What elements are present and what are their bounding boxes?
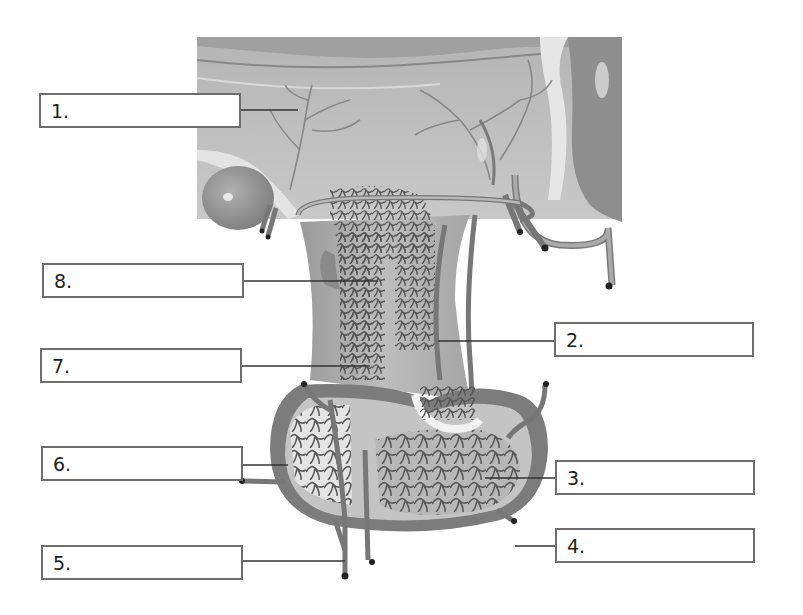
- label-number-2: 2.: [566, 329, 584, 351]
- label-number-5: 5.: [53, 552, 71, 574]
- label-number-3: 3.: [567, 467, 585, 489]
- label-box-3[interactable]: 3.: [555, 460, 755, 495]
- label-box-1[interactable]: 1.: [39, 93, 241, 128]
- label-box-4[interactable]: 4.: [555, 528, 755, 563]
- label-box-8[interactable]: 8.: [42, 263, 244, 298]
- label-number-7: 7.: [52, 355, 70, 377]
- label-number-6: 6.: [53, 453, 71, 475]
- label-box-6[interactable]: 6.: [41, 446, 243, 481]
- pituitary-gland: [239, 381, 549, 580]
- diagram-stage: 1. 2. 3. 4. 5. 6. 7. 8.: [0, 0, 803, 615]
- label-box-2[interactable]: 2.: [554, 322, 754, 357]
- label-number-1: 1.: [51, 100, 69, 122]
- label-number-4: 4.: [567, 535, 585, 557]
- label-box-7[interactable]: 7.: [40, 348, 242, 383]
- label-number-8: 8.: [54, 270, 72, 292]
- label-box-5[interactable]: 5.: [41, 545, 243, 580]
